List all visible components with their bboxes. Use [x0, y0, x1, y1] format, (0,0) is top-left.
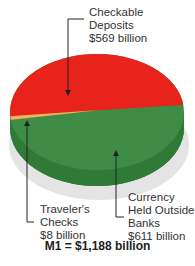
label-text: Deposits — [89, 19, 147, 32]
label-text: Currency — [128, 191, 194, 204]
label-text: Held Outside — [128, 204, 194, 217]
label-checkable: Checkable Deposits $569 billion — [89, 6, 147, 45]
slice-checkable — [0, 40, 195, 117]
label-text: Checkable — [89, 6, 147, 19]
label-travelers: Traveler's Checks $8 billion — [40, 203, 90, 242]
label-text: Traveler's — [40, 203, 90, 216]
label-value: $569 billion — [89, 32, 147, 45]
label-currency: Currency Held Outside Banks $611 billion — [128, 191, 194, 243]
label-text: Checks — [40, 216, 90, 229]
chart-total-label: M1 = $1,188 billion — [0, 239, 195, 253]
label-text: Banks — [128, 217, 194, 230]
